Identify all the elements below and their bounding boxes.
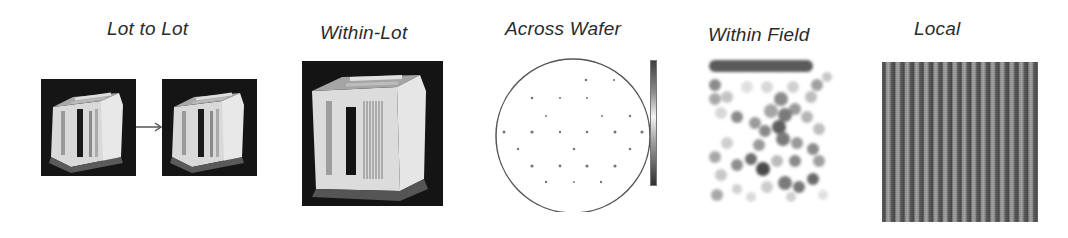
- wafer-carrier-image: [302, 61, 443, 206]
- wafer-carrier-image: [162, 79, 257, 176]
- within-field-dot-map: [707, 57, 837, 203]
- panel-title-local: Local: [914, 18, 960, 40]
- panel-title-within-lot: Within-Lot: [320, 22, 407, 44]
- wafer-colorbar: [650, 60, 657, 186]
- line-space-pattern-image: [882, 62, 1038, 222]
- right-arrow-icon: [136, 122, 163, 132]
- wafer-carrier-image: [41, 79, 136, 176]
- wafer-carrier-photo-lot-b: [162, 79, 257, 176]
- wafer-carrier-photo-lot-a: [41, 79, 136, 176]
- panel-title-within-field: Within Field: [708, 24, 809, 46]
- wafer-map: [494, 52, 650, 212]
- panel-title-across-wafer: Across Wafer: [505, 18, 621, 40]
- wafer-carrier-photo-within-lot: [302, 61, 443, 206]
- panel-title-lot-to-lot: Lot to Lot: [107, 18, 188, 40]
